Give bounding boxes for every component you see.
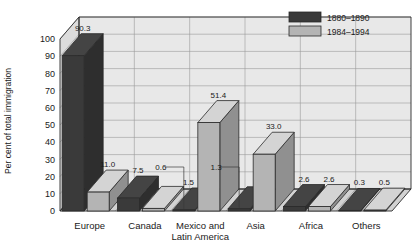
y-tick-label: 70	[45, 86, 55, 96]
value-label-1984-0: 11.0	[100, 160, 116, 169]
y-tick-label: 100	[40, 34, 55, 44]
y-tick-label: 60	[45, 103, 55, 113]
y-tick-label: 90	[45, 51, 55, 61]
bar-front-face	[284, 207, 306, 211]
value-label-1880-0: 90.3	[75, 24, 91, 33]
chart-canvas: 1009080706050403020100 Per cent of total…	[0, 0, 418, 242]
bar-front-face	[173, 210, 195, 211]
value-label-1880-3: 1.3	[211, 163, 223, 172]
value-label-1984-4: 2.6	[323, 175, 335, 184]
value-label-1880-5: 0.3	[354, 178, 366, 187]
bar-front-face	[253, 154, 275, 211]
x-category-label-3: Asia	[246, 220, 265, 231]
bar-front-face	[228, 209, 250, 211]
bar-front-face	[62, 56, 84, 211]
bar-front-face	[309, 207, 331, 211]
x-category-label-1: Canada	[128, 220, 162, 231]
legend-swatch-1	[289, 26, 321, 36]
legend-label-1: 1984–1994	[327, 27, 370, 37]
legend-label-0: 1880–1890	[327, 13, 370, 23]
y-tick-label: 0	[50, 206, 55, 216]
y-tick-label: 30	[45, 155, 55, 165]
bar-front-face	[87, 192, 109, 211]
y-axis-ticks: 1009080706050403020100	[40, 34, 55, 216]
y-axis-title: Per cent of total immigration	[3, 68, 13, 174]
value-label-1984-5: 0.5	[379, 178, 391, 187]
y-tick-label: 50	[45, 120, 55, 130]
y-tick-label: 40	[45, 137, 55, 147]
y-tick-label: 20	[45, 172, 55, 182]
x-category-label-4: Africa	[299, 220, 324, 231]
legend-swatch-0	[289, 12, 321, 22]
bar-front-face	[118, 198, 140, 211]
value-label-1880-4: 2.6	[298, 175, 310, 184]
value-label-1984-1: 1.5	[183, 178, 195, 187]
bar-1984-2	[198, 101, 239, 211]
value-label-1984-3: 33.0	[266, 122, 282, 131]
bar-front-face	[143, 208, 165, 211]
y-tick-label: 10	[45, 189, 55, 199]
bar-front-face	[339, 210, 361, 211]
value-label-1880-1: 7.5	[132, 166, 144, 175]
x-category-label-5: Others	[352, 220, 381, 231]
value-label-1880-2: 0.6	[155, 163, 167, 172]
value-label-1984-2: 51.4	[211, 91, 227, 100]
y-tick-label: 80	[45, 69, 55, 79]
x-category-label-0: Europe	[74, 220, 105, 231]
immigration-bar-chart: 1009080706050403020100 Per cent of total…	[0, 0, 418, 242]
bar-front-face	[364, 210, 386, 211]
x-axis-category-labels: EuropeCanadaMexico andLatin AmericaAsiaA…	[74, 220, 380, 242]
x-category-label-2: Mexico andLatin America	[172, 220, 230, 242]
